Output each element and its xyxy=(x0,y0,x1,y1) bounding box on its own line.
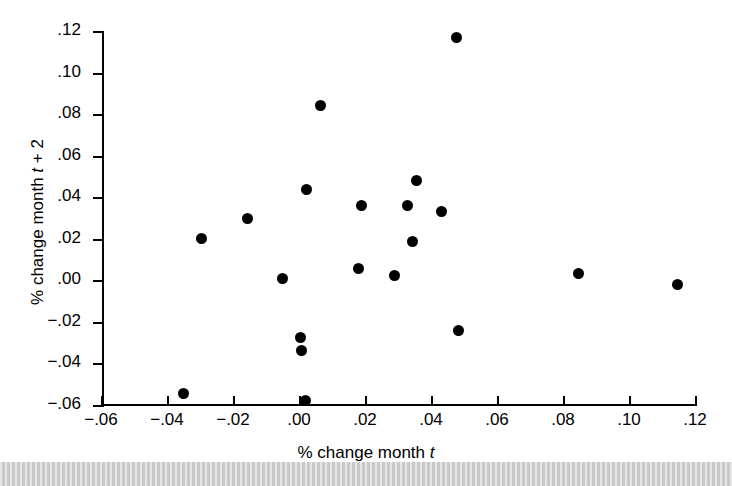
y-axis-title-suffix: + 2 xyxy=(28,139,47,168)
data-point xyxy=(242,213,253,224)
x-axis-title-text: % change month xyxy=(297,443,429,462)
x-tick-label: .10 xyxy=(617,410,641,430)
data-point xyxy=(573,268,584,279)
y-tick: .10 xyxy=(93,73,104,75)
data-point xyxy=(389,270,400,281)
y-tick-label: .04 xyxy=(57,186,81,206)
x-axis-line xyxy=(102,404,696,406)
data-point xyxy=(296,345,307,356)
y-tick: .04 xyxy=(93,197,104,199)
scatter-plot-figure: .12.10.08.06.04.02.00−.02−.04−.06 −.06−.… xyxy=(0,0,732,486)
data-point xyxy=(451,32,462,43)
y-axis-title-variable: t xyxy=(28,168,47,173)
x-tick-label: −.02 xyxy=(216,410,250,430)
data-point xyxy=(353,263,364,274)
y-axis-title-text: % change month xyxy=(28,173,47,305)
y-tick: .12 xyxy=(93,31,104,33)
x-tick: −.04 xyxy=(167,396,169,406)
y-tick-label: .02 xyxy=(57,228,81,248)
data-point xyxy=(436,206,447,217)
x-tick: −.02 xyxy=(233,396,235,406)
data-point xyxy=(277,273,288,284)
data-point xyxy=(411,175,422,186)
data-point xyxy=(672,279,683,290)
x-tick-label: −.04 xyxy=(150,410,184,430)
y-tick: −.02 xyxy=(93,322,104,324)
data-point xyxy=(301,184,312,195)
y-tick-label: .06 xyxy=(57,145,81,165)
x-tick: .06 xyxy=(497,396,499,406)
data-point xyxy=(196,233,207,244)
x-tick: .04 xyxy=(431,396,433,406)
x-tick-label: .06 xyxy=(485,410,509,430)
x-tick: .10 xyxy=(629,396,631,406)
plot-area: .12.10.08.06.04.02.00−.02−.04−.06 −.06−.… xyxy=(102,32,696,406)
x-axis-title: % change month t xyxy=(0,443,732,463)
data-point xyxy=(356,200,367,211)
y-tick-label: .00 xyxy=(57,269,81,289)
x-tick-label: .08 xyxy=(551,410,575,430)
x-tick-label: .00 xyxy=(287,410,311,430)
data-point xyxy=(295,332,306,343)
y-axis-line xyxy=(102,32,104,406)
y-tick: −.04 xyxy=(93,363,104,365)
x-tick: .02 xyxy=(365,396,367,406)
y-axis-title: % change month t + 2 xyxy=(28,12,48,432)
y-tick: .02 xyxy=(93,239,104,241)
y-tick: .00 xyxy=(93,280,104,282)
y-tick-label: .08 xyxy=(57,103,81,123)
data-point xyxy=(178,388,189,399)
x-tick: −.06 xyxy=(101,396,103,406)
x-tick: .12 xyxy=(695,396,697,406)
x-tick-label: .12 xyxy=(683,410,707,430)
data-point xyxy=(407,236,418,247)
x-tick-label: .02 xyxy=(353,410,377,430)
data-point xyxy=(315,100,326,111)
y-tick: .06 xyxy=(93,156,104,158)
y-tick-label: −.04 xyxy=(47,352,81,372)
y-tick-label: −.06 xyxy=(47,394,81,414)
x-tick-label: .04 xyxy=(419,410,443,430)
x-axis-title-variable: t xyxy=(430,443,435,462)
y-tick-label: .12 xyxy=(57,20,81,40)
data-point xyxy=(402,200,413,211)
page-bottom-band xyxy=(0,462,732,486)
y-tick: .08 xyxy=(93,114,104,116)
x-tick-label: −.06 xyxy=(84,410,118,430)
y-tick-label: .10 xyxy=(57,62,81,82)
x-tick: .08 xyxy=(563,396,565,406)
y-tick-label: −.02 xyxy=(47,311,81,331)
data-point xyxy=(453,325,464,336)
